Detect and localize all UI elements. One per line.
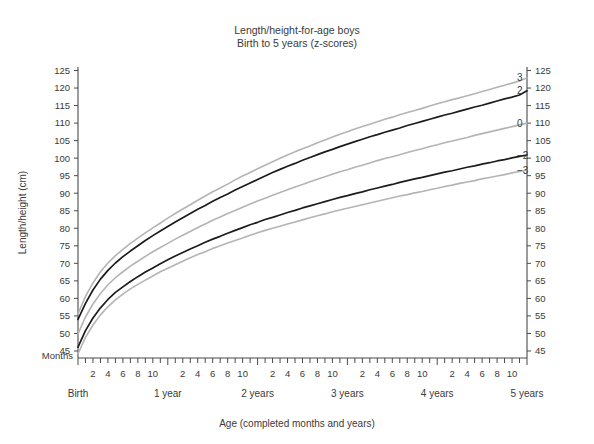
- z-score-curve-label: 3: [517, 72, 523, 83]
- y-tick-label-right: 55: [535, 310, 546, 321]
- x-tick-label-month: 2: [360, 368, 365, 379]
- y-tick-label-right: 100: [535, 153, 551, 164]
- y-tick-label-left: 95: [59, 170, 70, 181]
- y-tick-label-left: 120: [54, 82, 70, 93]
- chart-subtitle: Birth to 5 years (z-scores): [237, 37, 357, 49]
- y-tick-label-left: 50: [59, 328, 70, 339]
- x-axis-year-label: 2 years: [241, 388, 274, 399]
- y-tick-label-left: 105: [54, 135, 70, 146]
- y-tick-label-right: 45: [535, 345, 546, 356]
- y-tick-label-left: 115: [55, 100, 70, 111]
- x-tick-label-month: 2: [270, 368, 275, 379]
- y-tick-label-right: 65: [535, 275, 546, 286]
- chart-title: Length/height-for-age boys: [234, 24, 360, 36]
- z-score-curve-label: −3: [517, 165, 529, 176]
- y-tick-label-left: 80: [59, 223, 70, 234]
- y-tick-label-left: 85: [59, 205, 70, 216]
- y-tick-label-left: 70: [59, 258, 70, 269]
- y-tick-label-right: 75: [535, 240, 546, 251]
- x-tick-label-month: 8: [405, 368, 410, 379]
- y-tick-label-right: 70: [535, 258, 546, 269]
- x-tick-label-month: 8: [135, 368, 140, 379]
- x-axis-title: Age (completed months and years): [219, 418, 375, 429]
- x-tick-label-month: 10: [327, 368, 338, 379]
- y-tick-label-left: 65: [59, 275, 70, 286]
- z-score-curve-label: 0: [517, 118, 523, 129]
- x-tick-label-month: 10: [148, 368, 159, 379]
- y-tick-label-right: 115: [535, 100, 550, 111]
- y-tick-label-left: 110: [55, 117, 70, 128]
- x-axis-year-label: 5 years: [511, 388, 544, 399]
- z-score-curve-label: 2: [517, 85, 523, 96]
- y-tick-label-left: 45: [59, 345, 70, 356]
- x-tick-label-month: 10: [237, 368, 248, 379]
- y-tick-label-right: 105: [535, 135, 551, 146]
- x-tick-label-month: 8: [225, 368, 230, 379]
- y-tick-label-left: 75: [59, 240, 70, 251]
- x-tick-label-month: 4: [285, 368, 290, 379]
- x-tick-label-month: 8: [494, 368, 499, 379]
- x-tick-label-month: 4: [105, 368, 110, 379]
- x-tick-label-month: 6: [210, 368, 215, 379]
- x-tick-label-month: 6: [390, 368, 395, 379]
- y-tick-label-right: 50: [535, 328, 546, 339]
- x-axis-year-label: 4 years: [421, 388, 454, 399]
- x-tick-label-month: 4: [195, 368, 200, 379]
- x-tick-label-month: 6: [300, 368, 305, 379]
- z-score-curve-label: −2: [517, 150, 529, 161]
- x-axis-year-label: 3 years: [331, 388, 364, 399]
- growth-chart-root: Length/height-for-age boys Birth to 5 ye…: [0, 0, 594, 444]
- y-tick-label-left: 55: [59, 310, 70, 321]
- y-tick-label-right: 90: [535, 188, 546, 199]
- x-tick-label-month: 2: [90, 368, 95, 379]
- x-tick-label-month: 2: [450, 368, 455, 379]
- x-tick-label-month: 10: [417, 368, 428, 379]
- x-tick-label-month: 6: [479, 368, 484, 379]
- y-tick-label-left: 60: [59, 293, 70, 304]
- y-tick-label-right: 95: [535, 170, 546, 181]
- x-tick-label-month: 10: [507, 368, 518, 379]
- y-tick-label-right: 110: [535, 117, 550, 128]
- y-tick-label-right: 80: [535, 223, 546, 234]
- y-tick-label-left: 100: [54, 153, 70, 164]
- x-axis-year-label: 1 year: [154, 388, 182, 399]
- y-tick-label-right: 60: [535, 293, 546, 304]
- y-axis-title: Length/height (cm): [17, 171, 28, 254]
- y-tick-label-left: 90: [59, 188, 70, 199]
- x-tick-label-month: 4: [375, 368, 380, 379]
- y-tick-label-right: 85: [535, 205, 546, 216]
- y-tick-label-right: 120: [535, 82, 551, 93]
- x-tick-label-month: 8: [315, 368, 320, 379]
- y-tick-label-right: 125: [535, 65, 551, 76]
- x-tick-label-month: 2: [180, 368, 185, 379]
- y-tick-label-left: 125: [54, 65, 70, 76]
- length-height-for-age-chart: Length/height-for-age boys Birth to 5 ye…: [0, 0, 594, 444]
- x-tick-label-month: 4: [464, 368, 469, 379]
- x-tick-label-month: 6: [120, 368, 125, 379]
- x-axis-year-label: Birth: [68, 388, 89, 399]
